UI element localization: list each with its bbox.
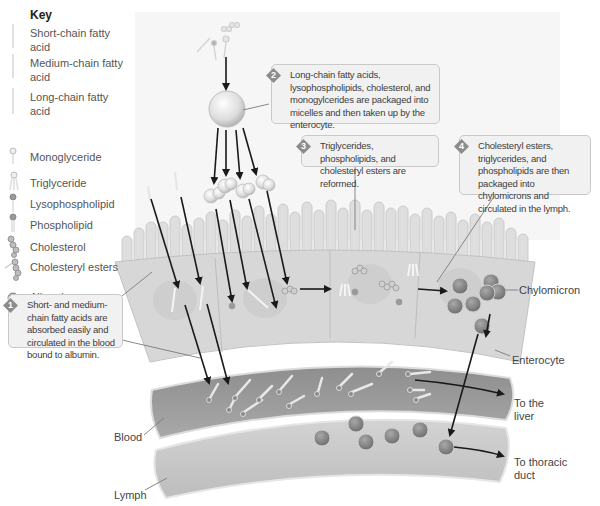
legend-item-short-chain: Short-chain fatty acid — [30, 26, 125, 54]
medium-chain-fatty-acid-icon — [4, 52, 24, 80]
callout-step-4-text: Cholesteryl esters, triglycerides, and p… — [478, 140, 570, 214]
legend-item-medium-chain: Medium-chain fatty acid — [30, 56, 125, 84]
legend-item-phospholipid: Phospholipid — [30, 218, 125, 232]
cholesterol-icon — [4, 234, 24, 258]
legend-title: Key — [30, 8, 52, 22]
cholesteryl-esters-icon — [4, 256, 24, 284]
label-blood: Blood — [114, 431, 142, 444]
label-enterocyte: Enterocyte — [512, 354, 565, 367]
step-4-badge: 4 — [454, 139, 469, 154]
step-2-badge: 2 — [266, 68, 281, 83]
legend-item-long-chain: Long-chain fatty acid — [30, 90, 125, 118]
step-3-badge: 3 — [296, 139, 311, 154]
label-to-thoracic-duct: To thoracic duct — [514, 456, 574, 482]
short-chain-fatty-acid-icon — [4, 22, 24, 50]
step-1-badge: 1 — [3, 298, 18, 313]
fat-absorption-diagram: Key Short-chain fatty acid Medium-chain … — [0, 0, 600, 506]
callout-step-1: 1 Short- and medium-chain fatty acids ar… — [8, 294, 123, 348]
label-to-liver: To the liver — [514, 397, 564, 423]
callout-step-2: 2 Long-chain fatty acids, lysophospholip… — [271, 64, 440, 124]
legend-item-cholesteryl-esters: Cholesteryl esters — [30, 260, 125, 274]
callout-step-4: 4 Cholesteryl esters, triglycerides, and… — [459, 135, 591, 195]
micelle — [209, 91, 245, 127]
legend-item-cholesterol: Cholesterol — [30, 240, 125, 254]
lymph-vessel — [154, 420, 509, 498]
label-chylomicron: Chylomicron — [519, 284, 580, 297]
label-lymph: Lymph — [114, 489, 147, 502]
monoglyceride-icon — [4, 146, 24, 166]
long-chain-fatty-acid-icon — [4, 86, 24, 114]
callout-step-2-text: Long-chain fatty acids, lysophospholipid… — [290, 69, 430, 130]
legend-item-monoglyceride: Monoglyceride — [30, 150, 125, 164]
callout-step-3: 3 Triglycerides, phospholipids, and chol… — [301, 135, 439, 167]
legend-item-lysophospholipid: Lysophospholipid — [30, 197, 125, 211]
triglyceride-icon — [4, 170, 24, 192]
phospholipid-icon — [4, 212, 24, 234]
lysophospholipid-icon — [4, 192, 24, 214]
legend-item-triglyceride: Triglyceride — [30, 176, 125, 190]
